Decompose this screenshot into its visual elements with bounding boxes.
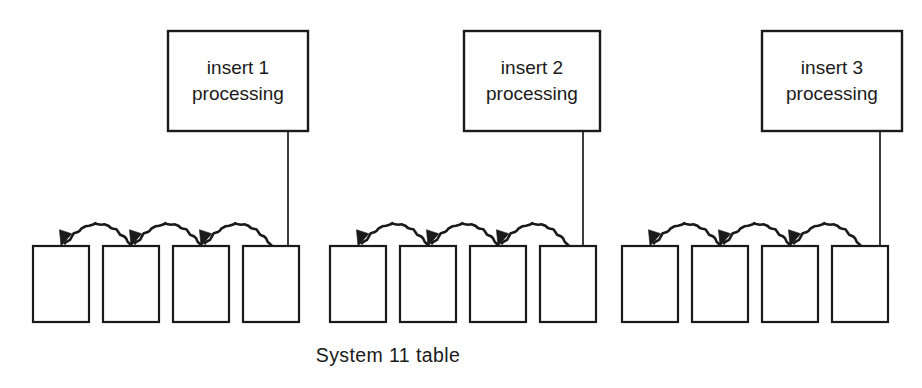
hop-arrow-arc xyxy=(793,223,861,246)
hop-arrow-arc xyxy=(64,223,132,246)
hop-arrow-arc xyxy=(501,223,569,246)
process-box-label-line1: insert 3 xyxy=(801,57,863,78)
process-box-label-line1: insert 2 xyxy=(501,57,563,78)
insert-group: insert 3processing xyxy=(622,31,902,322)
system-11-table-diagram: insert 1processinginsert 2processinginse… xyxy=(0,0,922,388)
insert-groups-layer: insert 1processinginsert 2processinginse… xyxy=(33,31,902,322)
process-box-label-line1: insert 1 xyxy=(207,57,269,78)
hop-arrow-arc xyxy=(204,223,272,246)
hop-arrow-arc xyxy=(653,223,721,246)
diagram-caption: System 11 table xyxy=(316,344,460,366)
process-box-outline xyxy=(464,31,600,131)
table-cell xyxy=(762,246,818,322)
process-box-label-line2: processing xyxy=(486,83,578,104)
hop-arrow-arc xyxy=(134,223,202,246)
process-box: insert 3processing xyxy=(762,31,902,131)
hop-arrow-arc xyxy=(431,223,499,246)
process-box-label-line2: processing xyxy=(192,83,284,104)
insert-group: insert 2processing xyxy=(330,31,600,322)
table-cell xyxy=(173,246,229,322)
table-cell xyxy=(692,246,748,322)
table-cell xyxy=(470,246,526,322)
table-cell xyxy=(243,246,299,322)
process-box-outline xyxy=(168,31,308,131)
insert-group: insert 1processing xyxy=(33,31,308,322)
table-cell xyxy=(103,246,159,322)
table-cell xyxy=(622,246,678,322)
table-cell xyxy=(33,246,89,322)
table-cell xyxy=(832,246,888,322)
process-box: insert 1processing xyxy=(168,31,308,131)
hop-arrow-arc xyxy=(723,223,791,246)
process-box-outline xyxy=(762,31,902,131)
table-cell xyxy=(540,246,596,322)
process-box: insert 2processing xyxy=(464,31,600,131)
hop-arrow-arc xyxy=(361,223,429,246)
process-box-label-line2: processing xyxy=(786,83,878,104)
table-cell xyxy=(400,246,456,322)
diagram-canvas: insert 1processinginsert 2processinginse… xyxy=(0,0,922,388)
table-cell xyxy=(330,246,386,322)
